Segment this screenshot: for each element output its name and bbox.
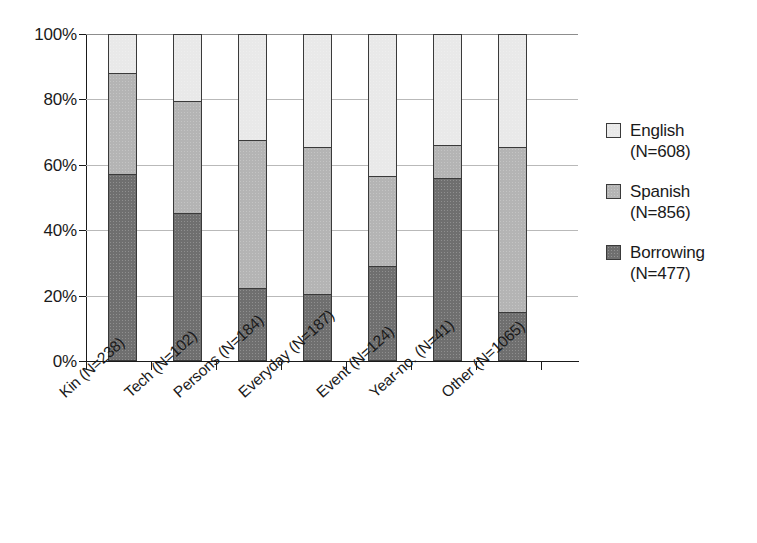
legend-entry-borrowing[interactable]: Borrowing (N=477) [606, 242, 756, 284]
bar-segment-english[interactable] [498, 34, 527, 147]
legend-count-english: (N=608) [630, 141, 756, 162]
ytick-mark-20 [79, 296, 86, 297]
plot-area [86, 34, 578, 361]
ytick-mark-80 [79, 99, 86, 100]
bar-segment-borrowing[interactable] [108, 174, 137, 361]
light-gray-swatch-icon [606, 123, 621, 138]
bar-other[interactable] [498, 34, 527, 361]
bar-segment-english[interactable] [368, 34, 397, 176]
bar-event[interactable] [368, 34, 397, 361]
legend: English (N=608) Spanish (N=856) Borrowin… [606, 120, 756, 303]
xtick-mark-7 [541, 361, 542, 370]
medium-gray-swatch-icon [606, 184, 621, 199]
bar-segment-spanish[interactable] [108, 73, 137, 174]
bar-tech[interactable] [173, 34, 202, 361]
bar-segment-english[interactable] [433, 34, 462, 145]
bar-segment-english[interactable] [108, 34, 137, 73]
legend-entry-english[interactable]: English (N=608) [606, 120, 756, 162]
legend-count-spanish: (N=856) [630, 202, 756, 223]
bar-segment-spanish[interactable] [368, 176, 397, 266]
bar-year-no[interactable] [433, 34, 462, 361]
bar-segment-spanish[interactable] [498, 147, 527, 313]
dark-gray-swatch-icon [606, 245, 621, 260]
bar-segment-spanish[interactable] [173, 101, 202, 213]
ytick-mark-60 [79, 165, 86, 166]
ytick-label-100: 100% [7, 25, 77, 45]
ytick-mark-100 [79, 34, 86, 35]
bar-segment-english[interactable] [238, 34, 267, 140]
ytick-label-40: 40% [7, 221, 77, 241]
legend-label-borrowing: Borrowing [630, 242, 705, 263]
bar-kin[interactable] [108, 34, 137, 361]
legend-count-borrowing: (N=477) [630, 263, 756, 284]
legend-label-english: English [630, 120, 684, 141]
ytick-mark-40 [79, 230, 86, 231]
bar-segment-spanish[interactable] [238, 140, 267, 288]
ytick-label-60: 60% [7, 156, 77, 176]
bar-segment-spanish[interactable] [303, 147, 332, 294]
bar-segment-english[interactable] [173, 34, 202, 101]
ytick-label-0: 0% [7, 352, 77, 372]
legend-entry-spanish[interactable]: Spanish (N=856) [606, 181, 756, 223]
ytick-label-20: 20% [7, 287, 77, 307]
bar-segment-spanish[interactable] [433, 145, 462, 178]
stacked-bar-chart: 100% 80% 60% 40% 20% 0% [0, 0, 757, 543]
ytick-label-80: 80% [7, 90, 77, 110]
legend-label-spanish: Spanish [630, 181, 690, 202]
bar-segment-english[interactable] [303, 34, 332, 147]
